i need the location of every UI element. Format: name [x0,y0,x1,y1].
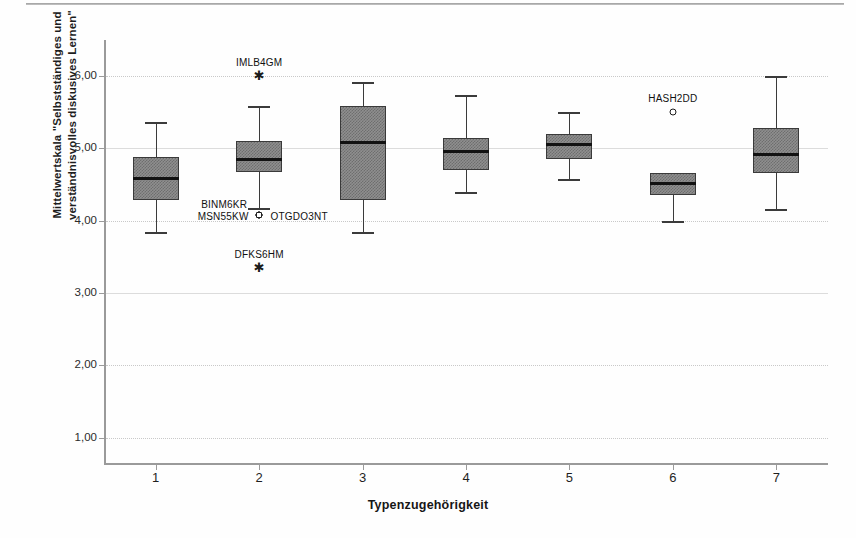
whisker-upper [156,122,157,157]
whisker-cap-lower [248,208,270,210]
whisker-upper [466,95,467,138]
median-line [650,182,696,185]
y-tick-mark [99,221,104,222]
whisker-cap-lower [145,232,167,234]
y-tick-label-6-00: 6,00 [51,69,104,81]
x-tick-mark [156,465,157,470]
plot-area: 6,005,004,003,002,001,00 1234567 ✱IMLB4G… [104,40,828,465]
outlier-label-IMLB4GM: IMLB4GM [236,57,282,68]
y-tick-mark [99,76,104,77]
box-iqr [236,141,282,171]
outlier-star-marker[interactable]: ✱ [254,71,265,81]
gridline-6-00 [106,76,828,78]
median-line [443,150,489,153]
y-tick-mark [99,365,104,366]
x-tick-label-2: 2 [229,470,289,485]
outlier-star-marker[interactable]: ✱ [254,263,265,273]
whisker-upper [776,76,777,128]
x-tick-label-3: 3 [333,470,393,485]
whisker-cap-upper [558,112,580,114]
whisker-lower [259,172,260,208]
outlier-label-HASH2DD: HASH2DD [648,93,697,104]
whisker-lower [363,200,364,232]
gridline-2-00 [106,365,828,367]
x-tick-mark [673,465,674,470]
x-axis-title: Typenzugehörigkeit [0,498,856,512]
gridline-3-00 [106,293,828,295]
y-tick-label-2-00: 2,00 [51,358,104,370]
outlier-circle-marker[interactable] [256,211,263,218]
whisker-cap-upper [455,95,477,97]
y-axis-line [104,40,106,465]
median-line [133,177,179,180]
whisker-lower [673,195,674,221]
figure-canvas: Mittelwertskala "Selbstständiges und ver… [0,0,856,538]
x-tick-mark [776,465,777,470]
x-tick-label-6: 6 [643,470,703,485]
median-line [236,158,282,161]
y-tick-label-3-00: 3,00 [51,286,104,298]
gridline-1-00 [106,438,828,440]
whisker-cap-lower [558,179,580,181]
whisker-upper [259,106,260,141]
box-iqr [443,138,489,170]
outlier-label-MSN55KW: MSN55KW [198,210,249,221]
x-tick-mark [259,465,260,470]
box-iqr [340,106,386,200]
x-tick-mark [466,465,467,470]
top-divider-rule [26,3,844,5]
x-tick-label-4: 4 [436,470,496,485]
median-line [753,153,799,156]
whisker-cap-upper [145,122,167,124]
median-line [546,143,592,146]
whisker-cap-lower [455,192,477,194]
whisker-cap-lower [352,232,374,234]
whisker-upper [569,112,570,134]
x-tick-label-1: 1 [126,470,186,485]
outlier-label-BINM6KR: BINM6KR [201,198,247,209]
y-tick-mark [99,293,104,294]
whisker-lower [466,170,467,192]
outlier-label-DFKS6HM: DFKS6HM [235,248,284,259]
whisker-cap-upper [352,82,374,84]
whisker-cap-upper [765,76,787,78]
whisker-cap-upper [248,106,270,108]
whisker-upper [363,82,364,107]
y-tick-label-5-00: 5,00 [51,141,104,153]
y-tick-mark [99,148,104,149]
x-tick-label-5: 5 [539,470,599,485]
y-tick-label-1-00: 1,00 [51,431,104,443]
whisker-lower [776,173,777,209]
box-iqr [753,128,799,173]
x-tick-label-7: 7 [746,470,806,485]
x-tick-mark [363,465,364,470]
whisker-lower [156,200,157,232]
y-tick-mark [99,438,104,439]
whisker-cap-lower [765,209,787,211]
whisker-cap-lower [662,221,684,223]
y-tick-label-4-00: 4,00 [51,214,104,226]
median-line [340,141,386,144]
whisker-lower [569,159,570,179]
outlier-label-OTGDO3NT: OTGDO3NT [271,210,328,221]
x-tick-mark [569,465,570,470]
box-iqr [546,134,592,159]
outlier-circle-marker[interactable] [669,109,676,116]
